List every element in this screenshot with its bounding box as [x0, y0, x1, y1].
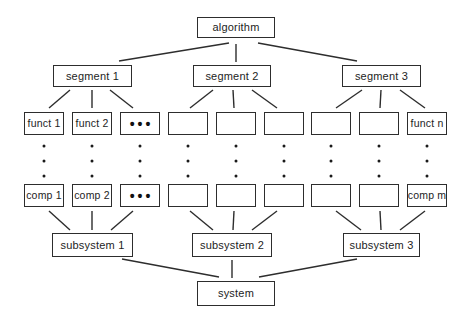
node-funct-unlabeled-7 [311, 112, 351, 135]
node-comp-unlabeled-6 [264, 184, 304, 207]
node-segment-2: segment 2 [193, 65, 271, 87]
node-segment-1: segment 1 [53, 65, 132, 87]
node-comp-2: comp 2 [72, 184, 112, 207]
comp-ellipsis-icon: ••• [120, 184, 160, 207]
node-comp-unlabeled-7 [311, 184, 351, 207]
node-funct-n: funct n [407, 112, 447, 135]
node-comp-unlabeled-5 [216, 184, 256, 207]
node-segment-3: segment 3 [342, 65, 421, 87]
node-comp-1: comp 1 [24, 184, 64, 207]
node-comp-unlabeled-8 [359, 184, 399, 207]
node-funct-unlabeled-6 [264, 112, 304, 135]
vertical-ellipsis-dots [43, 145, 429, 178]
node-funct-1: funct 1 [24, 112, 64, 135]
node-funct-2: funct 2 [72, 112, 112, 135]
node-funct-unlabeled-8 [359, 112, 399, 135]
node-comp-m: comp m [407, 184, 447, 207]
node-subsystem-1: subsystem 1 [52, 233, 133, 257]
node-funct-unlabeled-5 [216, 112, 256, 135]
node-subsystem-2: subsystem 2 [192, 233, 272, 257]
node-comp-unlabeled-4 [168, 184, 208, 207]
node-system: system [197, 281, 275, 306]
hierarchy-diagram: algorithm segment 1 segment 2 segment 3 … [0, 0, 469, 318]
node-funct-unlabeled-4 [168, 112, 208, 135]
connector-lines [0, 0, 469, 318]
node-subsystem-3: subsystem 3 [343, 233, 420, 257]
node-algorithm: algorithm [197, 17, 275, 38]
funct-ellipsis-icon: ••• [120, 112, 160, 135]
